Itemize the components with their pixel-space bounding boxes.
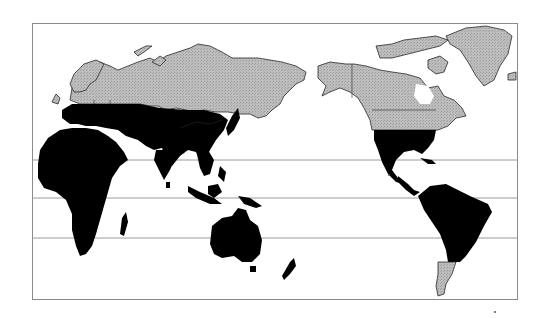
north-america-temperate-region bbox=[318, 26, 516, 130]
greenland bbox=[446, 26, 512, 86]
world-map bbox=[0, 0, 547, 318]
scan-speck bbox=[494, 311, 496, 313]
americas-tropical bbox=[374, 130, 492, 262]
sri-lanka bbox=[166, 182, 170, 188]
arctic-archipelago bbox=[376, 36, 448, 58]
scan-speck bbox=[388, 174, 390, 176]
philippines bbox=[218, 166, 226, 182]
new-zealand bbox=[282, 258, 296, 280]
baffin-island bbox=[428, 56, 448, 74]
madagascar bbox=[120, 212, 128, 236]
africa bbox=[38, 128, 128, 256]
british-isles bbox=[52, 94, 60, 104]
southern-cone-temperate-region bbox=[436, 262, 456, 296]
borneo bbox=[208, 184, 222, 198]
iceland bbox=[508, 72, 516, 80]
cuba-caribbean bbox=[420, 158, 436, 164]
novaya-zemlya bbox=[134, 46, 152, 56]
central-america bbox=[398, 176, 420, 196]
southeast-asia bbox=[196, 150, 214, 176]
south-america bbox=[418, 184, 492, 262]
usa-south-mexico bbox=[374, 130, 436, 184]
australia bbox=[210, 208, 262, 262]
tasmania bbox=[250, 266, 256, 272]
oceania-tropical bbox=[210, 208, 296, 280]
